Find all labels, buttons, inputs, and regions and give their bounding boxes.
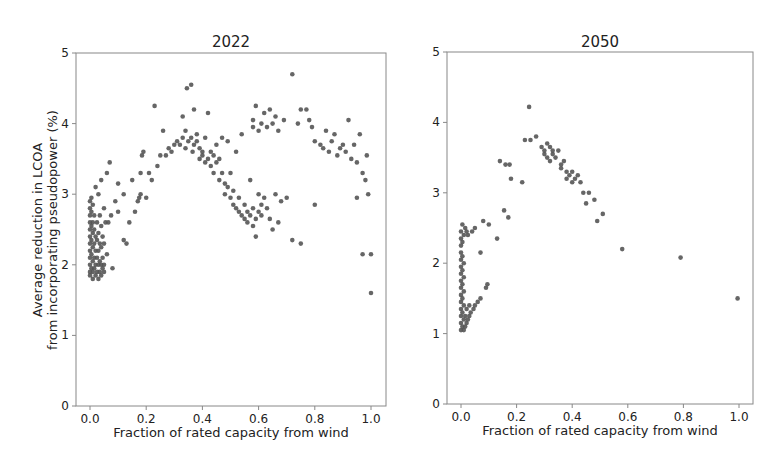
data-point xyxy=(124,241,129,246)
data-point xyxy=(290,72,295,77)
data-point xyxy=(520,180,525,185)
data-point xyxy=(256,128,261,133)
y-tick-label: 4 xyxy=(432,115,440,129)
data-point xyxy=(242,203,247,208)
axes-frame-2022 xyxy=(76,53,386,406)
data-point xyxy=(369,252,374,257)
data-point xyxy=(192,107,197,112)
data-point xyxy=(164,153,169,158)
data-point xyxy=(138,171,143,176)
data-point xyxy=(534,134,539,139)
data-point xyxy=(183,128,188,133)
data-point xyxy=(343,150,348,155)
data-point xyxy=(121,192,126,197)
data-point xyxy=(528,138,533,143)
data-point xyxy=(89,210,94,215)
data-point xyxy=(276,128,281,133)
data-point xyxy=(259,213,264,218)
data-point xyxy=(460,254,465,259)
y-axis-label-line2: from incorporating pseudopower (%) xyxy=(45,110,60,350)
data-point xyxy=(313,203,318,208)
data-point xyxy=(509,176,514,181)
data-point xyxy=(109,213,114,218)
data-point xyxy=(279,199,284,204)
data-point xyxy=(237,210,242,215)
data-point xyxy=(299,241,304,246)
x-tick-label: 0.6 xyxy=(618,410,637,424)
data-point xyxy=(99,245,104,250)
data-point xyxy=(209,150,214,155)
data-point xyxy=(127,220,132,225)
data-point xyxy=(365,153,370,158)
data-point xyxy=(321,146,326,151)
axis-ticks-2022: 0.00.20.40.60.81.0012345 xyxy=(61,46,380,426)
x-tick-label: 0.0 xyxy=(80,412,99,426)
data-point xyxy=(620,247,625,252)
data-point xyxy=(259,121,264,126)
x-tick-label: 0.4 xyxy=(563,410,582,424)
data-point xyxy=(138,192,143,197)
data-point xyxy=(548,159,553,164)
data-point xyxy=(144,195,149,200)
data-point xyxy=(352,143,357,148)
y-tick-label: 5 xyxy=(432,45,440,59)
data-point xyxy=(223,192,228,197)
data-point xyxy=(95,255,100,260)
data-point xyxy=(234,150,239,155)
data-point xyxy=(225,185,230,190)
data-point xyxy=(237,195,242,200)
data-point xyxy=(507,162,512,167)
data-point xyxy=(601,212,606,217)
data-point xyxy=(96,231,101,236)
data-point xyxy=(189,83,194,88)
data-point xyxy=(304,107,309,112)
x-axis-label-2050: Fraction of rated capacity from wind xyxy=(482,423,718,438)
data-point xyxy=(254,234,259,239)
data-point xyxy=(366,192,371,197)
data-point xyxy=(102,270,107,275)
data-point xyxy=(332,132,337,137)
data-point xyxy=(735,296,740,301)
data-point xyxy=(251,224,256,229)
data-point xyxy=(113,199,118,204)
data-point xyxy=(100,234,105,239)
data-point xyxy=(273,114,278,119)
data-point xyxy=(358,132,363,137)
data-point xyxy=(116,181,121,186)
data-point xyxy=(360,171,365,176)
data-point xyxy=(180,135,185,140)
data-point xyxy=(460,240,465,245)
data-point xyxy=(254,217,259,222)
data-point xyxy=(225,139,230,144)
data-point xyxy=(169,150,174,155)
figure: 2022 0.00.20.40.60.81.0012345 Average re… xyxy=(0,0,782,468)
data-point xyxy=(91,220,96,225)
data-point xyxy=(335,153,340,158)
data-point xyxy=(152,104,157,109)
data-point xyxy=(251,118,256,123)
data-point xyxy=(503,162,508,167)
data-point xyxy=(556,148,561,153)
data-point xyxy=(506,215,511,220)
data-point xyxy=(578,180,583,185)
data-point xyxy=(327,150,332,155)
y-tick-label: 2 xyxy=(432,256,440,270)
data-point xyxy=(248,213,253,218)
data-point xyxy=(189,135,194,140)
data-point xyxy=(89,195,94,200)
data-point xyxy=(211,171,216,176)
data-point xyxy=(178,143,183,148)
data-point xyxy=(248,178,253,183)
data-point xyxy=(183,146,188,151)
x-tick-label: 0.6 xyxy=(249,412,268,426)
data-point xyxy=(186,139,191,144)
plot-title-2022: 2022 xyxy=(212,33,250,51)
data-point xyxy=(478,250,483,255)
data-point xyxy=(678,255,683,260)
data-point xyxy=(100,255,105,260)
data-point xyxy=(363,178,368,183)
data-point xyxy=(99,178,104,183)
data-point xyxy=(299,107,304,112)
x-tick-label: 0.8 xyxy=(305,412,324,426)
data-point xyxy=(256,192,261,197)
